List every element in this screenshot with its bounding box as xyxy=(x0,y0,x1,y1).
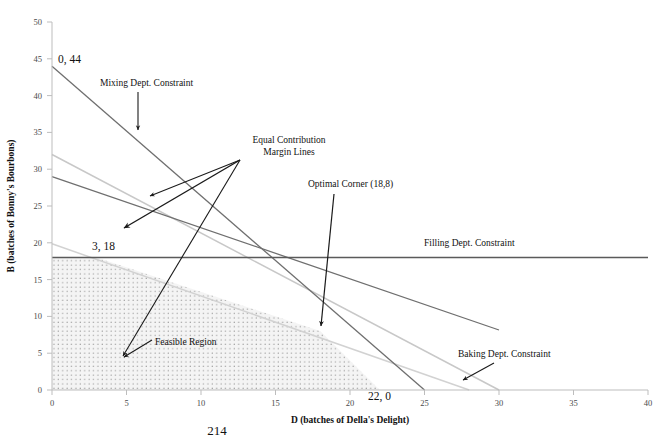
x-tick-label-40: 40 xyxy=(644,398,653,408)
y-axis-title: B (batches of Bonny's Bourbons) xyxy=(6,139,17,272)
annotation-mixing-dept: Mixing Dept. Constraint xyxy=(100,78,194,88)
y-tick-label-25: 25 xyxy=(34,201,43,211)
y-tick-label-15: 15 xyxy=(34,275,43,285)
y-tick-label-45: 45 xyxy=(34,54,43,64)
chart-canvas: 0 5 10 15 20 25 30 35 40 45 50 0 5 10 15… xyxy=(0,0,670,439)
y-tick-label-0: 0 xyxy=(38,385,42,395)
arrow-equal-contribution-2 xyxy=(124,160,240,228)
annotation-baking-dept: Baking Dept. Constraint xyxy=(458,349,551,359)
feasible-region-shape xyxy=(52,258,380,391)
annotation-optimal-corner: Optimal Corner (18,8) xyxy=(308,179,393,190)
x-tick-label-30: 30 xyxy=(495,398,504,408)
y-tick-label-30: 30 xyxy=(34,164,43,174)
y-tick-label-35: 35 xyxy=(34,127,43,137)
x-tick-label-15: 15 xyxy=(271,398,280,408)
linear-programming-chart: 0 5 10 15 20 25 30 35 40 45 50 0 5 10 15… xyxy=(0,0,670,439)
page-number: 214 xyxy=(207,423,227,438)
annotation-filling-dept: Filling Dept. Constraint xyxy=(424,238,515,248)
y-tick-label-10: 10 xyxy=(34,311,43,321)
annotation-feasible-region: Feasible Region xyxy=(155,337,217,347)
point-label-0-44: 0, 44 xyxy=(58,53,81,66)
x-tick-label-0: 0 xyxy=(50,398,54,408)
point-label-22-0: 22, 0 xyxy=(368,390,391,403)
y-tick-label-5: 5 xyxy=(38,348,42,358)
x-axis-title: D (batches of Della's Delight) xyxy=(291,415,409,426)
x-tick-label-5: 5 xyxy=(124,398,128,408)
y-tick-label-20: 20 xyxy=(34,238,43,248)
y-axis-ticks xyxy=(47,22,52,390)
y-tick-label-40: 40 xyxy=(34,91,43,101)
x-tick-label-10: 10 xyxy=(197,398,206,408)
y-tick-label-50: 50 xyxy=(34,17,43,27)
x-tick-label-20: 20 xyxy=(346,398,355,408)
x-tick-label-35: 35 xyxy=(569,398,578,408)
annotation-equal-contribution-line2: Margin Lines xyxy=(263,147,315,157)
point-label-3-18: 3, 18 xyxy=(92,240,115,253)
arrow-baking-dept xyxy=(463,363,494,380)
x-axis-ticks xyxy=(52,390,648,395)
x-tick-label-25: 25 xyxy=(420,398,429,408)
annotation-equal-contribution-line1: Equal Contribution xyxy=(252,135,325,145)
